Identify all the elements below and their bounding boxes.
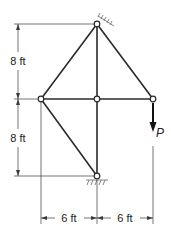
arrowhead-icon <box>147 216 153 220</box>
dim-label-lower: 8 ft <box>10 132 25 144</box>
node-bottom <box>94 173 100 179</box>
truss-diagram: 8 ft 8 ft 6 ft 6 ft <box>0 0 171 237</box>
dim-label-upper: 8 ft <box>10 55 25 67</box>
node-middle-left <box>38 96 44 102</box>
arrowhead-icon <box>16 24 20 30</box>
member-left-bottom <box>41 99 97 176</box>
node-middle-center <box>94 96 100 102</box>
arrowhead-icon <box>16 93 20 99</box>
member-top-right <box>97 24 153 99</box>
member-top-left <box>41 24 97 99</box>
vertical-dimension <box>16 24 20 176</box>
node-top <box>94 21 100 27</box>
arrowhead-icon <box>91 216 97 220</box>
arrowhead-icon <box>41 216 47 220</box>
arrowhead-icon <box>16 170 20 176</box>
top-pin-support-icon <box>98 13 114 26</box>
arrowhead-icon <box>97 216 103 220</box>
node-middle-right <box>150 96 156 102</box>
arrowhead-icon <box>16 99 20 105</box>
dim-label-right: 6 ft <box>117 212 132 224</box>
load-label: P <box>156 126 164 140</box>
dim-label-left: 6 ft <box>61 212 76 224</box>
